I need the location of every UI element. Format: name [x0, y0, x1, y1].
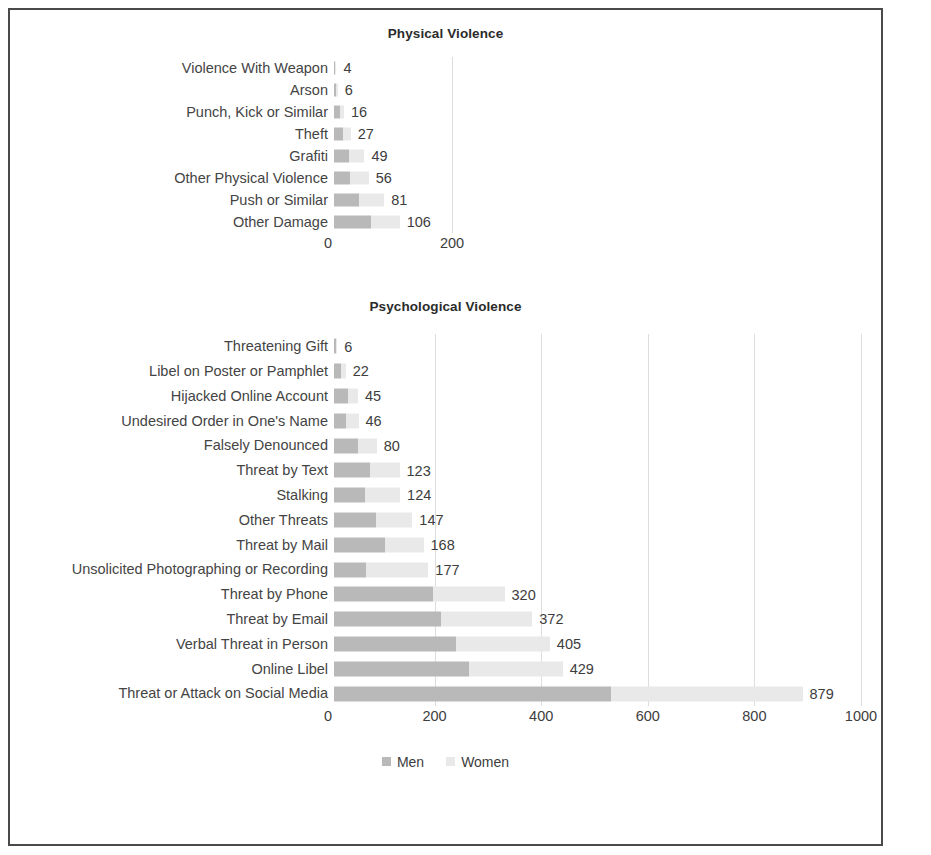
- stacked-bar: 56: [334, 172, 392, 185]
- physical-violence-panel: Physical Violence Violence With Weapon4A…: [10, 26, 881, 255]
- bar-value-label: 6: [344, 339, 352, 354]
- category-label: Falsely Denounced: [10, 438, 334, 453]
- bar-value-label: 147: [419, 513, 443, 528]
- bar-row: Push or Similar81: [10, 189, 881, 211]
- bar-container: 168: [334, 532, 335, 557]
- bar-container: 45: [334, 384, 335, 409]
- bar-row: Grafiti49: [10, 145, 881, 167]
- bar-segment-men: [334, 388, 348, 403]
- bar-value-label: 320: [512, 587, 536, 602]
- bar-value-label: 22: [353, 364, 369, 379]
- bar-container: 80: [334, 433, 335, 458]
- bar-segment-women: [441, 612, 533, 627]
- category-label: Verbal Threat in Person: [10, 637, 334, 652]
- stacked-bar: 429: [334, 661, 594, 676]
- psychological-violence-x-axis: 02004006008001000: [10, 706, 881, 728]
- category-label: Threat by Phone: [10, 587, 334, 602]
- bar-value-label: 46: [366, 414, 382, 429]
- bar-segment-women: [336, 339, 337, 354]
- bar-container: 320: [334, 582, 335, 607]
- x-tick-label: 0: [324, 708, 332, 724]
- bar-row: Other Damage106: [10, 211, 881, 233]
- bar-row: Threatening Gift6: [10, 334, 881, 359]
- bar-segment-women: [341, 364, 345, 379]
- bar-segment-women: [456, 636, 550, 651]
- stacked-bar: 123: [334, 463, 431, 478]
- bar-row: Other Threats147: [10, 508, 881, 533]
- bar-value-label: 81: [391, 193, 407, 208]
- bar-row: Threat by Email372: [10, 607, 881, 632]
- bar-container: 405: [334, 632, 335, 657]
- bar-segment-women: [358, 438, 377, 453]
- bar-value-label: 405: [557, 637, 581, 652]
- stacked-bar: 16: [334, 106, 367, 119]
- legend-swatch-icon: [446, 757, 455, 766]
- bar-segment-women: [370, 463, 399, 478]
- bar-row: Threat by Text123: [10, 458, 881, 483]
- bar-row: Falsely Denounced80: [10, 433, 881, 458]
- x-tick-label: 1000: [845, 708, 877, 724]
- stacked-bar: 46: [334, 413, 382, 428]
- bar-segment-men: [334, 438, 358, 453]
- x-tick-label: 400: [529, 708, 553, 724]
- legend-item-men[interactable]: Men: [382, 754, 424, 770]
- category-label: Arson: [10, 83, 334, 98]
- bar-segment-men: [334, 364, 341, 379]
- category-label: Grafiti: [10, 149, 334, 164]
- bar-value-label: 372: [539, 612, 563, 627]
- category-label: Violence With Weapon: [10, 61, 334, 76]
- bar-row: Stalking124: [10, 483, 881, 508]
- category-label: Undesired Order in One's Name: [10, 414, 334, 429]
- legend-item-women[interactable]: Women: [446, 754, 509, 770]
- x-tick-label: 200: [422, 708, 446, 724]
- category-label: Hijacked Online Account: [10, 389, 334, 404]
- bar-segment-women: [350, 172, 369, 185]
- bar-row: Other Physical Violence56: [10, 167, 881, 189]
- stacked-bar: 49: [334, 150, 388, 163]
- category-label: Threat or Attack on Social Media: [10, 686, 334, 701]
- category-label: Other Damage: [10, 215, 334, 230]
- category-label: Threat by Mail: [10, 538, 334, 553]
- bar-segment-women: [335, 62, 336, 75]
- stacked-bar: 372: [334, 612, 563, 627]
- category-label: Push or Similar: [10, 193, 334, 208]
- bar-segment-men: [334, 128, 343, 141]
- bar-container: 879: [334, 681, 335, 706]
- bar-value-label: 106: [407, 215, 431, 230]
- stacked-bar: 177: [334, 562, 460, 577]
- bar-container: 4: [334, 57, 335, 79]
- bar-row: Threat by Phone320: [10, 582, 881, 607]
- stacked-bar: 879: [334, 686, 834, 701]
- bar-value-label: 6: [345, 83, 353, 98]
- psychological-violence-panel: Psychological Violence Threatening Gift6…: [10, 299, 881, 728]
- bar-container: 27: [334, 123, 335, 145]
- x-tick-label: 800: [742, 708, 766, 724]
- bar-container: 6: [334, 79, 335, 101]
- bar-container: 22: [334, 359, 335, 384]
- bar-segment-women: [469, 661, 563, 676]
- bar-segment-men: [334, 537, 385, 552]
- bar-row: Threat or Attack on Social Media879: [10, 681, 881, 706]
- stacked-bar: 124: [334, 488, 431, 503]
- bar-container: 49: [334, 145, 335, 167]
- bar-segment-women: [366, 562, 428, 577]
- physical-violence-bars: Violence With Weapon4Arson6Punch, Kick o…: [10, 57, 881, 233]
- x-tick-label: 0: [324, 235, 332, 251]
- bar-value-label: 879: [810, 686, 834, 701]
- bar-container: 429: [334, 656, 335, 681]
- physical-violence-title: Physical Violence: [10, 26, 881, 41]
- bar-segment-women: [349, 150, 365, 163]
- bar-segment-men: [334, 512, 376, 527]
- stacked-bar: 4: [334, 62, 352, 75]
- bar-value-label: 168: [431, 538, 455, 553]
- bar-container: 81: [334, 189, 335, 211]
- legend-swatch-icon: [382, 757, 391, 766]
- bar-segment-men: [334, 150, 349, 163]
- bar-segment-women: [346, 413, 359, 428]
- stacked-bar: 45: [334, 388, 381, 403]
- category-label: Threat by Email: [10, 612, 334, 627]
- bar-container: 6: [334, 334, 335, 359]
- bar-value-label: 56: [376, 171, 392, 186]
- psychological-violence-bars: Threatening Gift6Libel on Poster or Pamp…: [10, 334, 881, 706]
- bar-row: Libel on Poster or Pamphlet22: [10, 359, 881, 384]
